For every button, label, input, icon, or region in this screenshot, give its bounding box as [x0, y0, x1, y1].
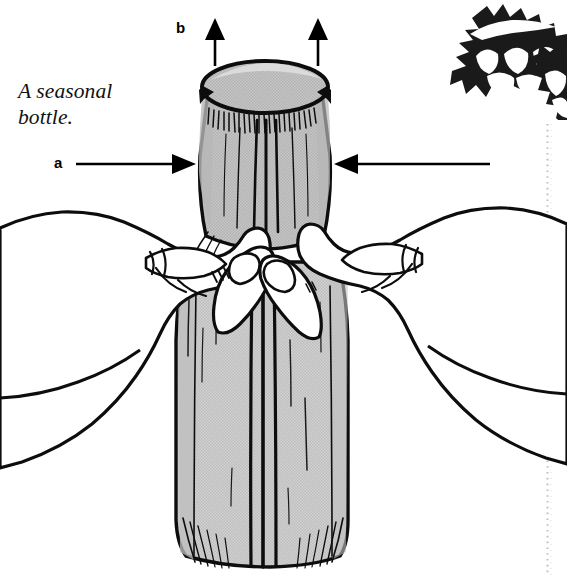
holly-leaf-icon	[450, 4, 567, 128]
label-a: a	[54, 154, 62, 171]
label-b: b	[176, 19, 185, 36]
arrow-right-icon-a	[76, 154, 196, 174]
arrow-left-icon	[334, 154, 490, 174]
caption-line-1: A seasonal	[18, 78, 178, 104]
illustration-page: A seasonal bottle. a b	[0, 0, 567, 576]
fabric-wrapped-bottle	[176, 61, 348, 568]
arrow-up-icon-right	[308, 18, 328, 66]
arrow-up-icon-b	[205, 18, 225, 66]
caption-line-2: bottle.	[18, 104, 178, 130]
figure-caption: A seasonal bottle.	[18, 78, 178, 130]
